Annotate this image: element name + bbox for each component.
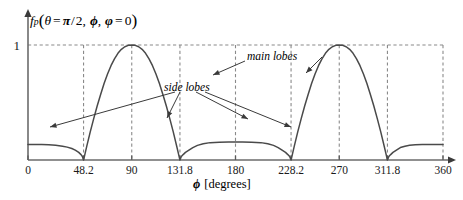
tick-label-360: 360 [434, 164, 452, 176]
tick-label-270: 270 [331, 164, 349, 176]
y-axis-title-slash: / [71, 13, 75, 28]
tick-label-0: 0 [25, 164, 31, 176]
x-axis-arrowhead [448, 156, 456, 163]
radiation-pattern-figure: 048.290131.8180228.2270311.8360 1 fp(θ=π… [0, 0, 463, 200]
tick-label-131p8: 131.8 [167, 164, 193, 176]
y-axis-title-pi: π [63, 13, 70, 28]
y-axis-title-two: 2 [76, 13, 83, 28]
tick-label-180: 180 [227, 164, 245, 176]
y-axis-title-varphi: φ [105, 13, 113, 28]
leader-side-lobe-far-left-head [50, 123, 57, 128]
x-axis-title: ϕ[degrees] [193, 177, 251, 192]
leader-side-lobe-far-left [50, 92, 175, 127]
y-axis-title: fp(θ=π/2,ϕ,φ=0) [30, 11, 137, 31]
x-axis-title-phi: ϕ [193, 177, 200, 191]
y-axis-title-phi: ϕ [90, 13, 98, 28]
y-axis-title-close-paren: ) [131, 11, 137, 30]
tick-label-311p8: 311.8 [375, 164, 401, 176]
annotation-side-lobes: side lobes [164, 81, 210, 93]
x-axis-title-units: [degrees] [204, 177, 251, 191]
x-axis-tick-labels: 048.290131.8180228.2270311.8360 [25, 164, 452, 176]
tick-label-90: 90 [126, 164, 138, 176]
tick-label-228p2: 228.2 [278, 164, 304, 176]
y-axis-title-theta: θ [44, 13, 51, 28]
tick-label-48p2: 48.2 [74, 164, 94, 176]
y-axis-title-equals-2: = [115, 13, 123, 28]
leader-side-lobe-center-right [196, 92, 248, 119]
y-axis-title-equals-1: = [53, 13, 61, 28]
leader-side-lobe-far-right-head [284, 122, 291, 127]
pattern-curve [28, 45, 443, 160]
y-axis-title-comma-1: , [83, 13, 86, 28]
axes [24, 9, 456, 164]
y-axis-title-comma-2: , [98, 13, 101, 28]
leader-main-lobe-left-head [213, 70, 220, 75]
leader-side-lobe-center-right-head [241, 114, 248, 119]
leader-side-lobe-far-right [205, 92, 291, 127]
annotation-main-lobes: main lobes [247, 50, 297, 62]
y-tick-label-one: 1 [14, 38, 21, 53]
